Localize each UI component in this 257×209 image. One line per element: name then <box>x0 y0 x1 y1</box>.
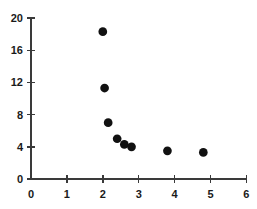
data-point <box>127 142 136 151</box>
data-point <box>100 84 109 93</box>
x-tick-label: 2 <box>100 188 106 200</box>
data-point <box>163 146 172 155</box>
y-tick-label: 12 <box>11 76 23 88</box>
y-tick-label: 8 <box>17 109 23 121</box>
x-tick-label: 4 <box>172 188 179 200</box>
data-point <box>113 134 122 143</box>
x-tick-label: 1 <box>64 188 70 200</box>
x-axis: 0123456 <box>28 175 250 200</box>
x-tick-label: 6 <box>243 188 249 200</box>
plot-area: 048121620 0123456 <box>0 0 257 209</box>
x-tick-label: 5 <box>207 188 213 200</box>
y-tick-label: 4 <box>17 141 24 153</box>
x-tick-label: 0 <box>28 188 34 200</box>
y-tick-label: 20 <box>11 12 23 24</box>
data-points-layer <box>98 27 207 156</box>
y-tick-label: 0 <box>17 173 23 185</box>
y-axis: 048121620 <box>11 12 35 185</box>
scatter-chart: 048121620 0123456 <box>0 0 257 209</box>
data-point <box>199 148 208 157</box>
x-tick-label: 3 <box>136 188 142 200</box>
data-point <box>98 27 107 36</box>
data-point <box>104 118 113 127</box>
y-tick-label: 16 <box>11 44 23 56</box>
